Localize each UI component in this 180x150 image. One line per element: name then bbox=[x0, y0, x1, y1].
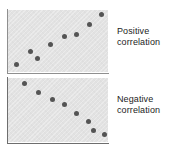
positive-label-line-2: correlation bbox=[117, 37, 179, 48]
data-point bbox=[99, 12, 104, 17]
data-point bbox=[102, 132, 107, 137]
negative-correlation-panel bbox=[8, 78, 108, 142]
data-point bbox=[91, 128, 96, 133]
negative-x-axis-spine bbox=[7, 143, 109, 144]
positive-label-line-1: Positive bbox=[117, 26, 179, 37]
data-point bbox=[50, 97, 55, 102]
positive-x-axis-spine bbox=[7, 73, 109, 74]
correlation-scatter-figure: Positive correlation Negative correlatio… bbox=[0, 0, 180, 150]
data-point bbox=[62, 34, 67, 39]
positive-plot-area bbox=[8, 10, 108, 72]
negative-label-line-1: Negative bbox=[117, 94, 179, 105]
data-point bbox=[35, 56, 40, 61]
data-point bbox=[14, 62, 19, 67]
data-point bbox=[86, 119, 91, 124]
negative-correlation-label: Negative correlation bbox=[117, 94, 179, 116]
positive-correlation-label: Positive correlation bbox=[117, 26, 179, 48]
data-point bbox=[36, 90, 41, 95]
data-point bbox=[48, 42, 53, 47]
data-point bbox=[22, 81, 27, 86]
data-point bbox=[74, 32, 79, 37]
positive-y-axis-spine bbox=[7, 9, 8, 74]
negative-plot-area bbox=[8, 78, 108, 142]
negative-label-line-2: correlation bbox=[117, 105, 179, 116]
data-point bbox=[28, 49, 33, 54]
positive-correlation-panel bbox=[8, 10, 108, 72]
data-point bbox=[74, 111, 79, 116]
negative-y-axis-spine bbox=[7, 77, 8, 144]
data-point bbox=[62, 102, 67, 107]
data-point bbox=[87, 22, 92, 27]
